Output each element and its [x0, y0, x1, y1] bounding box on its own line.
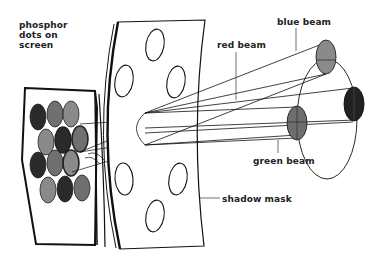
crt-diagram: phosphor dots on screen red beam blue be…: [0, 0, 382, 259]
red-beam-label: red beam: [217, 40, 266, 50]
leader-lines: [200, 28, 296, 198]
green-beam-label: green beam: [253, 156, 315, 166]
blue-beam-label: blue beam: [277, 17, 331, 27]
blue-beam-spot: [316, 40, 336, 74]
shadow-mask-plate: [103, 20, 205, 249]
shadow-mask-label: shadow mask: [222, 194, 292, 204]
phosphor-dots-label: phosphor dots on screen: [19, 20, 89, 50]
